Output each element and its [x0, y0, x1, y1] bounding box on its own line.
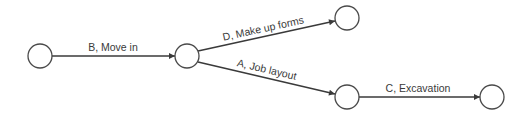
edge-label-d: D, Make up forms: [221, 13, 305, 42]
edge-label-c: C, Excavation: [386, 82, 451, 94]
edge-label-b: B, Move in: [88, 41, 138, 53]
event-node-2: [175, 44, 199, 68]
event-node-1: [28, 44, 52, 68]
edge-b-move-in: B, Move in: [52, 41, 175, 56]
edge-a-job-layout: A, Job layout: [198, 56, 335, 94]
event-node-5: [480, 85, 504, 109]
edge-c-excavation: C, Excavation: [359, 82, 480, 97]
activity-network-diagram: B, Move in D, Make up forms A, Job layou…: [0, 0, 530, 116]
edge-d-make-up-forms: D, Make up forms: [198, 13, 335, 51]
event-node-4: [335, 85, 359, 109]
event-node-3: [335, 6, 359, 30]
